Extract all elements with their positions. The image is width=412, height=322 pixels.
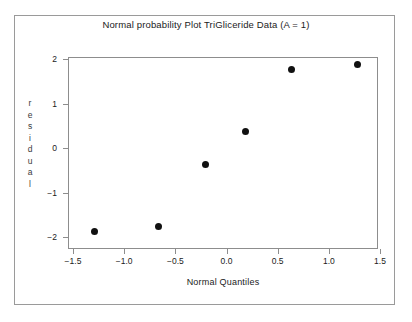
x-tick-label: −1.5 (56, 257, 90, 266)
x-tick-label: 1.5 (363, 257, 397, 266)
normal-probability-plot-figure: Normal probability Plot TriGliceride Dat… (0, 0, 412, 322)
x-tick-label: −1.0 (107, 257, 141, 266)
x-tick-label: 0.0 (210, 257, 244, 266)
x-tick-mark (278, 249, 279, 254)
y-tick-mark (63, 104, 68, 105)
x-tick-label: 0.5 (261, 257, 295, 266)
y-tick-mark (63, 193, 68, 194)
x-tick-mark (380, 249, 381, 254)
y-axis-title-letter: s (24, 121, 36, 133)
y-axis-title-letter: a (24, 167, 36, 179)
y-axis-title-letter: i (24, 133, 36, 145)
x-tick-mark (124, 249, 125, 254)
chart-title: Normal probability Plot TriGliceride Dat… (0, 19, 412, 30)
y-tick-label: 0 (31, 144, 57, 153)
x-tick-mark (73, 249, 74, 254)
x-tick-label: −0.5 (158, 257, 192, 266)
x-tick-mark (175, 249, 176, 254)
y-tick-label: 1 (31, 100, 57, 109)
x-axis-title: Normal Quantiles (68, 277, 378, 287)
y-tick-mark (63, 59, 68, 60)
x-tick-mark (227, 249, 228, 254)
y-tick-mark (63, 237, 68, 238)
x-tick-mark (329, 249, 330, 254)
plot-panel (68, 57, 378, 249)
x-tick-label: 1.0 (312, 257, 346, 266)
y-tick-label: 2 (31, 55, 57, 64)
y-tick-label: −1 (31, 189, 57, 198)
y-tick-mark (63, 148, 68, 149)
y-axis-title-letter: u (24, 156, 36, 168)
y-axis-title-letter: e (24, 110, 36, 122)
y-tick-label: −2 (31, 233, 57, 242)
